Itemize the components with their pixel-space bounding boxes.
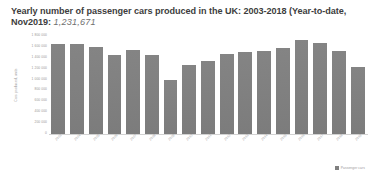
bar[interactable] bbox=[313, 43, 327, 134]
x-axis-tick-labels: 2003200420052006200720082009201020112012… bbox=[49, 135, 367, 155]
bar[interactable] bbox=[51, 44, 65, 134]
bar[interactable] bbox=[238, 52, 252, 134]
x-axis-tick-label: 2015 bbox=[279, 133, 287, 141]
bar[interactable] bbox=[220, 54, 234, 134]
bar[interactable] bbox=[332, 51, 346, 134]
x-axis-tick-label: 2009 bbox=[167, 133, 175, 141]
x-tick-slot: 2006 bbox=[105, 135, 124, 155]
bar-slot bbox=[68, 36, 87, 134]
x-tick-slot: 2003 bbox=[49, 135, 68, 155]
bar[interactable] bbox=[257, 51, 271, 134]
chart-legend: Passenger cars bbox=[335, 166, 365, 170]
bar-slot bbox=[217, 36, 236, 134]
y-axis-tick-label: 600 000 bbox=[35, 100, 47, 104]
x-axis-tick-label: 2010 bbox=[186, 133, 194, 141]
chart-title: Yearly number of passenger cars produced… bbox=[11, 6, 369, 29]
x-tick-slot: 2014 bbox=[255, 135, 274, 155]
bars-layer bbox=[49, 36, 367, 134]
bar-slot bbox=[348, 36, 367, 134]
x-tick-slot: 2004 bbox=[68, 135, 87, 155]
bar-slot bbox=[255, 36, 274, 134]
bar[interactable] bbox=[89, 47, 103, 134]
chart-title-figure: 1,231,671 bbox=[54, 17, 96, 27]
y-axis-tick-label: 200 000 bbox=[35, 121, 47, 125]
x-tick-slot: 2011 bbox=[199, 135, 218, 155]
bar[interactable] bbox=[201, 61, 215, 134]
bar[interactable] bbox=[276, 48, 290, 134]
bar-slot bbox=[86, 36, 105, 134]
bar[interactable] bbox=[126, 50, 140, 134]
y-axis-title: Cars produced, units bbox=[11, 36, 21, 134]
x-axis-tick-label: 2018 bbox=[335, 133, 343, 141]
y-axis-tick-labels: 0200 000400 000600 000800 0001 000 0001 … bbox=[22, 36, 47, 134]
y-axis-tick-label: 800 000 bbox=[35, 89, 47, 93]
x-tick-slot: 2013 bbox=[236, 135, 255, 155]
x-axis-tick-label: 2014 bbox=[260, 133, 268, 141]
y-axis-tick-label: 400 000 bbox=[35, 110, 47, 114]
chart-title-line-2-prefix: Nov2019: bbox=[11, 17, 51, 27]
bar[interactable] bbox=[351, 67, 365, 134]
legend-swatch-icon bbox=[335, 166, 338, 169]
bar-slot bbox=[330, 36, 349, 134]
x-axis-tick-label: 2008 bbox=[148, 133, 156, 141]
x-axis-tick-label: 2019 bbox=[354, 133, 362, 141]
bar-slot bbox=[273, 36, 292, 134]
bar[interactable] bbox=[108, 55, 122, 134]
bar[interactable] bbox=[295, 40, 309, 134]
bar-slot bbox=[49, 36, 68, 134]
bar[interactable] bbox=[70, 44, 84, 134]
bar-slot bbox=[311, 36, 330, 134]
bar[interactable] bbox=[164, 80, 178, 134]
x-tick-slot: 2012 bbox=[217, 135, 236, 155]
bar-slot bbox=[180, 36, 199, 134]
x-tick-slot: 2009 bbox=[161, 135, 180, 155]
x-axis-tick-label: 2004 bbox=[73, 133, 81, 141]
x-axis-tick-label: 2016 bbox=[298, 133, 306, 141]
x-axis-tick-label: 2007 bbox=[129, 133, 137, 141]
bar-slot bbox=[105, 36, 124, 134]
x-axis-tick-label: 2012 bbox=[223, 133, 231, 141]
x-tick-slot: 2010 bbox=[180, 135, 199, 155]
y-axis-tick-label: 1 800 000 bbox=[32, 34, 47, 38]
x-axis-tick-label: 2003 bbox=[55, 133, 63, 141]
x-tick-slot: 2015 bbox=[273, 135, 292, 155]
x-tick-slot: 2018 bbox=[330, 135, 349, 155]
bar-slot bbox=[292, 36, 311, 134]
bar-slot bbox=[124, 36, 143, 134]
bar[interactable] bbox=[182, 65, 196, 134]
x-tick-slot: 2005 bbox=[86, 135, 105, 155]
x-axis-tick-label: 2011 bbox=[204, 133, 212, 141]
x-tick-slot: 2019 bbox=[348, 135, 367, 155]
y-axis-tick-label: 1 000 000 bbox=[32, 78, 47, 82]
x-axis-tick-label: 2017 bbox=[317, 133, 325, 141]
y-axis-tick-label: 1 400 000 bbox=[32, 56, 47, 60]
x-tick-slot: 2007 bbox=[124, 135, 143, 155]
bar[interactable] bbox=[145, 55, 159, 134]
y-axis-tick-label: 1 200 000 bbox=[32, 67, 47, 71]
x-axis-tick-label: 2006 bbox=[111, 133, 119, 141]
bar-slot bbox=[143, 36, 162, 134]
x-axis-tick-label: 2013 bbox=[242, 133, 250, 141]
plot-area bbox=[49, 36, 367, 134]
bar-chart: Yearly number of passenger cars produced… bbox=[0, 0, 377, 176]
y-axis-tick-label: 1 600 000 bbox=[32, 45, 47, 49]
x-tick-slot: 2016 bbox=[292, 135, 311, 155]
y-axis-tick-label: 0 bbox=[45, 132, 47, 136]
bar-slot bbox=[161, 36, 180, 134]
x-tick-slot: 2017 bbox=[311, 135, 330, 155]
legend-label: Passenger cars bbox=[341, 166, 365, 170]
chart-title-line-1: Yearly number of passenger cars produced… bbox=[11, 6, 346, 16]
x-tick-slot: 2008 bbox=[143, 135, 162, 155]
x-axis-tick-label: 2005 bbox=[92, 133, 100, 141]
bar-slot bbox=[199, 36, 218, 134]
bar-slot bbox=[236, 36, 255, 134]
